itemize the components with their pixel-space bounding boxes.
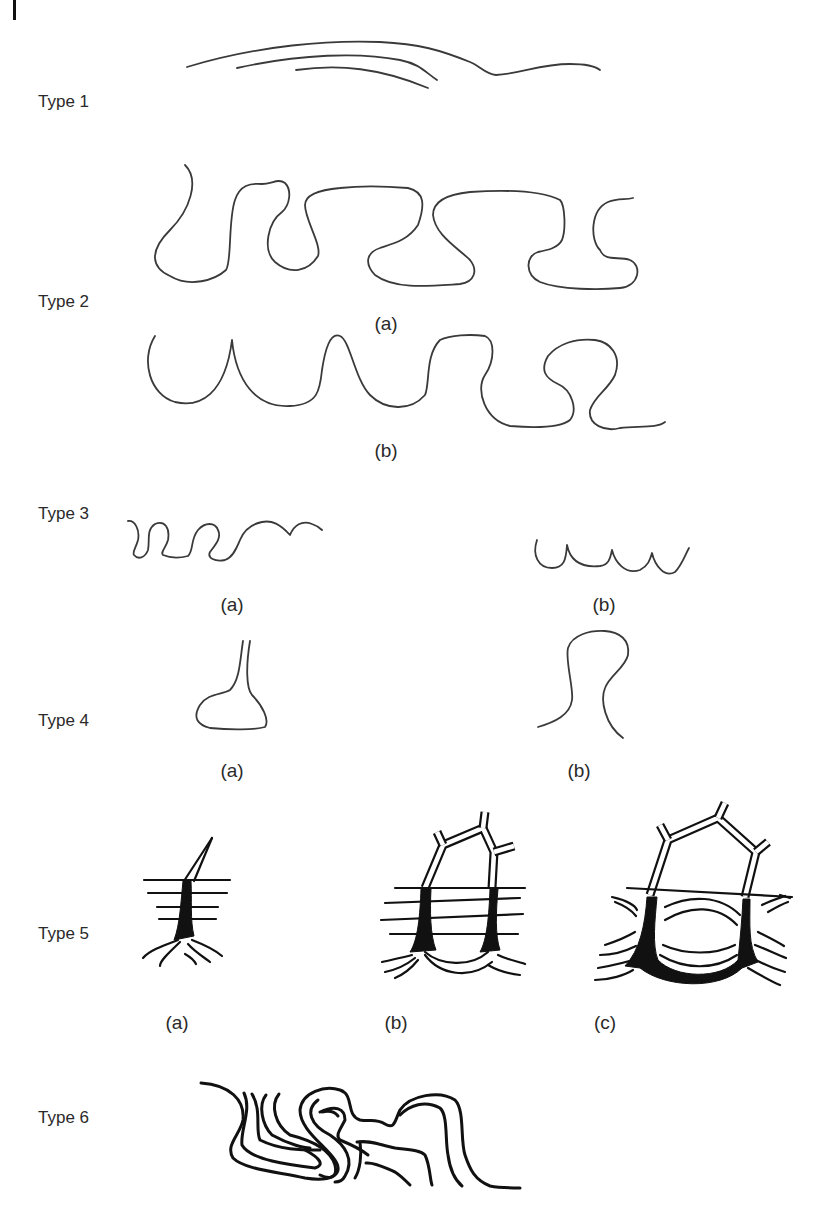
type6-drawing xyxy=(201,1083,520,1188)
type2b-drawing xyxy=(148,335,665,429)
type4a-drawing xyxy=(196,641,266,729)
type5a-drawing xyxy=(143,838,230,966)
type3a-drawing xyxy=(128,521,322,561)
figure-drawing xyxy=(0,0,822,1218)
type5b-drawing xyxy=(381,812,525,978)
type3b-drawing xyxy=(535,540,689,574)
type1-drawing xyxy=(187,42,600,88)
type4b-drawing xyxy=(538,631,628,738)
type2a-drawing xyxy=(155,165,637,289)
type5c-drawing xyxy=(595,803,792,985)
